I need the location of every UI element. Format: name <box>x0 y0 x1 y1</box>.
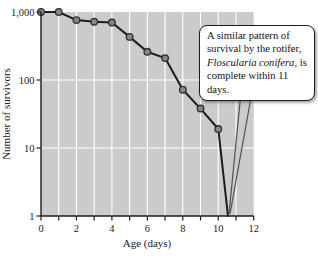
data-point-marker <box>126 34 133 41</box>
annotation-callout-box: A similar pattern of survival by the rot… <box>199 25 315 101</box>
y-tick-label: 100 <box>19 75 35 86</box>
y-tick-label: 10 <box>24 143 35 154</box>
x-tick-label: 4 <box>109 223 115 234</box>
data-point-marker <box>197 105 204 112</box>
x-tick-label: 8 <box>180 223 185 234</box>
data-point-marker <box>180 86 187 93</box>
x-tick-label: 0 <box>38 223 43 234</box>
y-tick-label: 1 <box>29 211 34 222</box>
annotation-text-before: A similar pattern of survival by the rot… <box>207 30 301 54</box>
x-tick-label: 2 <box>74 223 79 234</box>
annotation-species-name: Floscularia conifera <box>207 57 294 68</box>
x-tick-label: 6 <box>145 223 150 234</box>
y-axis-title: Number of survivors <box>0 68 12 160</box>
data-point-marker <box>109 19 116 26</box>
x-axis-title: Age (days) <box>123 237 172 250</box>
survivorship-chart-figure: 0246810121,000100101 Age (days) Number o… <box>0 0 318 256</box>
data-point-marker <box>162 55 169 62</box>
data-point-marker <box>91 18 98 25</box>
data-point-marker <box>144 48 151 55</box>
y-tick-label: 1,000 <box>11 7 35 18</box>
data-point-marker <box>73 17 80 24</box>
data-point-marker <box>215 126 222 133</box>
x-tick-label: 12 <box>248 223 259 234</box>
x-tick-label: 10 <box>213 223 224 234</box>
data-point-marker <box>55 9 62 16</box>
